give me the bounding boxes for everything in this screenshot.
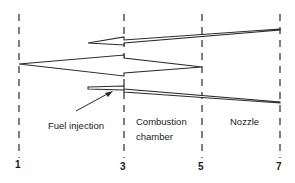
nozzle-label: Nozzle — [230, 115, 259, 129]
fuel-injection-leader-line — [76, 93, 109, 111]
station-1-label: 1 — [15, 159, 21, 170]
middle-arrow — [19, 55, 202, 76]
station-5-label: 5 — [198, 161, 204, 172]
bottom-arrow — [88, 86, 280, 103]
diagram-canvas — [0, 0, 295, 183]
top-arrow — [88, 29, 280, 45]
combustion-chamber-label-line1: Combustion — [136, 115, 187, 129]
fuel-injection-label: Fuel injection — [48, 119, 104, 133]
station-7-label: 7 — [276, 161, 282, 172]
fuel-injection-leader-arrowhead-icon — [105, 91, 113, 97]
station-3-label: 3 — [120, 161, 126, 172]
combustion-chamber-label-line2: chamber — [136, 130, 173, 144]
